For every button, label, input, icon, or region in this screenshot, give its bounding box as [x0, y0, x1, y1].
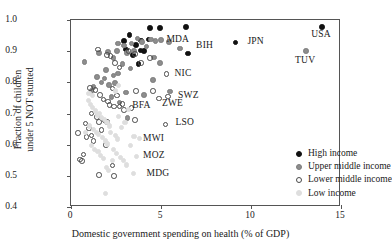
data-point-upper — [115, 41, 121, 47]
legend-item-upper[interactable]: Upper middle income — [296, 160, 392, 173]
x-axis-tick — [251, 205, 252, 209]
data-point-lower — [150, 88, 156, 94]
legend-label: High income — [308, 147, 357, 160]
point-label-nic: NIC — [175, 68, 192, 78]
data-point-low — [137, 136, 142, 141]
legend-label: Lower middle income — [308, 173, 392, 186]
data-point-high — [183, 24, 189, 30]
data-point-lower — [132, 117, 138, 123]
point-label-bfa: BFA — [132, 100, 150, 110]
data-point-lower — [133, 88, 139, 94]
data-point-upper — [157, 60, 163, 66]
y-axis-tick — [67, 51, 71, 52]
data-point-lower — [138, 60, 144, 66]
data-point-lower — [108, 53, 114, 59]
data-point-upper — [144, 44, 150, 50]
data-point-low — [126, 107, 131, 112]
data-point-upper — [115, 71, 121, 77]
data-point-low — [105, 141, 110, 146]
y-axis-tick — [67, 145, 71, 146]
legend-label: Upper middle income — [308, 160, 391, 173]
data-point-upper — [177, 46, 183, 52]
data-point-low — [131, 171, 136, 176]
point-label-mda: MDA — [166, 34, 189, 44]
x-axis-tick-label: 15 — [328, 210, 352, 220]
x-axis-tick — [341, 205, 342, 209]
data-point-low — [119, 125, 124, 130]
data-point-lower — [132, 51, 138, 57]
data-point-lower — [111, 173, 117, 179]
data-point-upper — [103, 67, 109, 73]
point-label-usa: USA — [311, 29, 331, 39]
data-point-lower — [96, 172, 102, 178]
data-point-upper — [150, 77, 156, 83]
y-axis-tick-label: 0.4 — [0, 201, 17, 211]
data-point-high — [233, 40, 239, 46]
data-point-low — [106, 168, 111, 173]
point-label-tuv: TUV — [295, 55, 315, 65]
point-label-moz: MOZ — [143, 150, 165, 160]
data-point-high — [185, 51, 191, 57]
legend-label: Low income — [308, 187, 356, 200]
y-axis-tick — [67, 20, 71, 21]
legend-item-high[interactable]: High income — [296, 147, 392, 160]
legend-item-low[interactable]: Low income — [296, 187, 392, 200]
data-point-upper — [303, 48, 309, 54]
data-point-upper — [94, 74, 100, 80]
legend-marker-icon-low — [296, 190, 302, 196]
data-point-lower — [117, 65, 123, 71]
data-point-low — [134, 154, 139, 159]
data-point-low — [116, 83, 121, 88]
x-axis-tick — [161, 205, 162, 209]
y-axis-title-line2: under 5 NOT stunted — [23, 25, 35, 195]
data-point-low — [103, 191, 108, 196]
data-point-high — [127, 32, 133, 38]
data-point-low — [116, 114, 121, 119]
x-axis-tick-label: 10 — [238, 210, 262, 220]
data-point-lower — [164, 71, 170, 77]
x-axis-tick-label: 0 — [58, 210, 82, 220]
point-label-bih: BIH — [196, 40, 213, 50]
data-point-lower — [79, 158, 85, 164]
y-axis-tick — [67, 82, 71, 83]
data-point-high — [157, 25, 163, 31]
data-point-lower — [163, 122, 169, 128]
point-label-lso: LSO — [175, 117, 194, 127]
legend-marker-icon-upper — [296, 164, 302, 170]
y-axis-tick-label: 1.0 — [0, 14, 17, 24]
data-point-upper — [82, 59, 88, 65]
data-point-low — [122, 120, 127, 125]
data-point-low — [124, 162, 129, 167]
legend-marker-icon-lower — [296, 177, 302, 183]
data-point-low — [131, 134, 136, 139]
data-point-lower — [96, 119, 102, 125]
data-point-upper — [123, 90, 129, 96]
data-point-upper — [102, 76, 108, 82]
data-point-low — [113, 88, 118, 93]
data-point-low — [101, 156, 106, 161]
data-point-low — [128, 143, 133, 148]
data-point-upper — [114, 48, 120, 54]
y-axis-title-line1: Fraction of children — [12, 25, 24, 195]
point-label-jpn: JPN — [247, 36, 263, 46]
point-label-mdg: MDG — [147, 168, 170, 178]
data-point-lower — [81, 152, 87, 158]
point-label-mwi: MWI — [143, 133, 164, 143]
data-point-low — [107, 123, 112, 128]
x-axis-tick — [71, 205, 72, 209]
data-point-lower — [87, 85, 93, 91]
x-axis-title: Domestic government spending on health (… — [0, 228, 361, 239]
plot-area: MDABIHJPNUSATUVNICSWZZWEBFALSOMWIMOZMDG … — [70, 19, 340, 206]
y-axis-title: Fraction of children under 5 NOT stunted — [12, 25, 35, 195]
y-axis-tick — [67, 114, 71, 115]
data-point-lower — [147, 55, 153, 61]
point-label-zwe: ZWE — [162, 98, 183, 108]
data-point-lower — [110, 163, 116, 169]
x-axis-tick-label: 5 — [148, 210, 172, 220]
data-point-upper — [158, 37, 164, 43]
y-axis-tick — [67, 176, 71, 177]
data-point-low — [115, 136, 120, 141]
data-point-low — [90, 93, 95, 98]
legend-item-lower[interactable]: Lower middle income — [296, 173, 392, 186]
